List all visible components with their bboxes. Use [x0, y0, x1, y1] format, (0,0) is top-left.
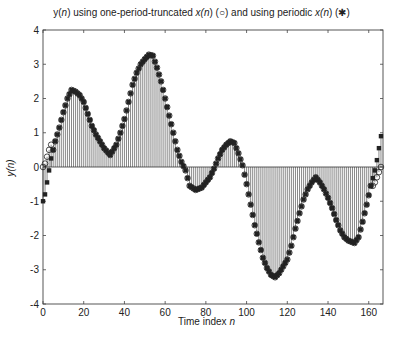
- asterisk-marker: [365, 202, 369, 206]
- asterisk-marker: [55, 132, 59, 136]
- asterisk-marker: [377, 146, 381, 150]
- asterisk-marker: [362, 211, 366, 215]
- asterisk-marker: [57, 125, 61, 129]
- asterisk-marker: [375, 158, 379, 162]
- asterisk-marker: [299, 204, 303, 208]
- asterisk-marker: [128, 91, 132, 95]
- asterisk-marker: [301, 197, 305, 201]
- asterisk-marker: [287, 250, 291, 254]
- y-tick-label: -2: [30, 230, 39, 241]
- asterisk-marker: [261, 256, 265, 260]
- asterisk-marker: [116, 137, 120, 141]
- y-tick-label: -3: [30, 264, 39, 275]
- asterisk-marker: [293, 226, 297, 230]
- y-tick-label: 4: [33, 25, 39, 36]
- asterisk-marker: [334, 218, 338, 222]
- asterisk-marker: [253, 223, 257, 227]
- asterisk-marker: [120, 124, 124, 128]
- asterisk-marker: [246, 192, 250, 196]
- asterisk-marker: [59, 118, 63, 122]
- asterisk-marker: [332, 212, 336, 216]
- asterisk-marker: [289, 244, 293, 248]
- asterisk-marker: [360, 220, 364, 224]
- asterisk-marker: [88, 118, 92, 122]
- asterisk-marker: [43, 192, 47, 196]
- asterisk-marker: [379, 134, 383, 138]
- asterisk-marker: [358, 227, 362, 231]
- asterisk-marker: [177, 154, 181, 158]
- asterisk-marker: [161, 88, 165, 92]
- asterisk-marker: [367, 193, 371, 197]
- asterisk-marker: [251, 213, 255, 217]
- asterisk-marker: [159, 79, 163, 83]
- asterisk-marker: [240, 163, 244, 167]
- stem-plot: 020406080100120140160-4-3-2-101234: [0, 0, 403, 340]
- asterisk-marker: [297, 211, 301, 215]
- asterisk-marker: [214, 161, 218, 165]
- y-tick-label: 3: [33, 59, 39, 70]
- asterisk-marker: [328, 201, 332, 205]
- y-axis-label: y(n): [5, 159, 16, 176]
- asterisk-marker: [263, 261, 267, 265]
- asterisk-marker: [244, 182, 248, 186]
- asterisk-marker: [173, 139, 177, 143]
- asterisk-marker: [171, 131, 175, 135]
- x-axis-label: Time index n: [0, 316, 403, 327]
- asterisk-marker: [185, 176, 189, 180]
- asterisk-marker: [41, 199, 45, 203]
- asterisk-marker: [132, 77, 136, 81]
- chart-title: y(n) using one-period-truncated x(n) (○)…: [0, 7, 403, 18]
- asterisk-marker: [255, 232, 259, 236]
- asterisk-marker: [163, 96, 167, 100]
- y-tick-label: 2: [33, 93, 39, 104]
- asterisk-marker: [165, 105, 169, 109]
- asterisk-marker: [234, 146, 238, 150]
- asterisk-marker: [122, 117, 126, 121]
- asterisk-marker: [248, 202, 252, 206]
- asterisk-marker: [63, 103, 67, 107]
- asterisk-marker: [175, 148, 179, 152]
- asterisk-marker: [155, 65, 159, 69]
- asterisk-marker: [118, 131, 122, 135]
- asterisk-marker: [153, 59, 157, 63]
- asterisk-marker: [124, 108, 128, 112]
- asterisk-marker: [126, 100, 130, 104]
- asterisk-marker: [45, 180, 49, 184]
- asterisk-marker: [295, 219, 299, 223]
- asterisk-marker: [157, 72, 161, 76]
- asterisk-marker: [238, 157, 242, 161]
- asterisk-marker: [86, 112, 90, 116]
- asterisk-marker: [242, 173, 246, 177]
- asterisk-marker: [169, 122, 173, 126]
- asterisk-marker: [130, 83, 134, 87]
- asterisk-marker: [167, 113, 171, 117]
- asterisk-marker: [84, 106, 88, 110]
- asterisk-marker: [61, 110, 65, 114]
- asterisk-marker: [336, 223, 340, 227]
- y-tick-label: 1: [33, 127, 39, 138]
- asterisk-marker: [236, 151, 240, 155]
- asterisk-marker: [257, 240, 261, 244]
- asterisk-marker: [291, 235, 295, 239]
- asterisk-marker: [330, 206, 334, 210]
- y-tick-label: 0: [33, 162, 39, 173]
- y-tick-label: -1: [30, 196, 39, 207]
- asterisk-marker: [47, 168, 51, 172]
- asterisk-marker: [303, 192, 307, 196]
- asterisk-marker: [259, 248, 263, 252]
- y-tick-label: -4: [30, 299, 39, 310]
